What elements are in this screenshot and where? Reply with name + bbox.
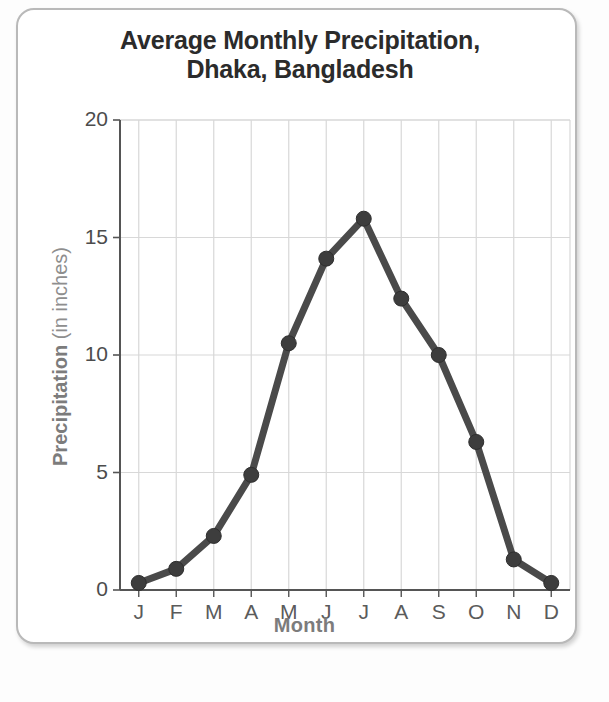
data-point-d-11 [544,575,559,590]
data-point-f-1 [169,561,184,576]
y-axis-title: Precipitation (in inches) [49,147,72,567]
y-axis-title-strong: Precipitation [49,345,71,466]
data-point-m-2 [206,528,221,543]
plot-area: 05101520 JFMAMJJASOND Precipitation (in … [0,0,609,702]
data-point-j-6 [356,211,371,226]
data-point-a-7 [394,291,409,306]
data-line [139,219,552,583]
axis-tick-marks [113,120,551,597]
figure-root: Average Monthly Precipitation, Dhaka, Ba… [0,0,609,702]
y-tick-label-10: 10 [66,342,108,366]
y-tick-label-15: 15 [66,225,108,249]
data-point-j-0 [131,575,146,590]
data-point-o-9 [469,434,484,449]
y-tick-label-20: 20 [66,107,108,131]
gridlines-horizontal [120,120,570,473]
data-point-j-5 [319,251,334,266]
y-axis-title-light: (in inches) [49,247,71,339]
data-point-n-10 [506,552,521,567]
data-point-m-4 [281,336,296,351]
data-markers [131,211,559,590]
y-tick-label-0: 0 [66,577,108,601]
y-tick-label-5: 5 [66,460,108,484]
data-point-s-8 [431,348,446,363]
data-point-a-3 [244,467,259,482]
x-axis-title: Month [0,614,609,637]
